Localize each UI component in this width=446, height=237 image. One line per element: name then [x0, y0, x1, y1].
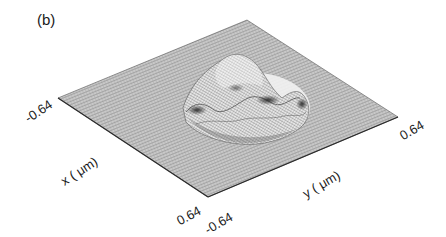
surface-plot — [0, 0, 446, 237]
